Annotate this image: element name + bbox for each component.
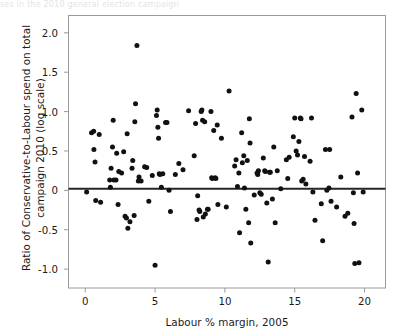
data-point xyxy=(132,119,137,124)
data-point xyxy=(84,189,89,194)
data-point xyxy=(98,200,103,205)
data-point xyxy=(195,193,200,198)
data-point xyxy=(150,173,155,178)
data-point xyxy=(111,118,116,123)
data-point xyxy=(164,120,169,125)
data-point xyxy=(271,145,276,150)
data-point xyxy=(329,199,334,204)
data-point xyxy=(144,165,149,170)
data-point xyxy=(245,158,250,163)
data-point xyxy=(139,178,144,183)
data-point xyxy=(326,185,331,190)
data-point xyxy=(133,101,138,106)
data-point xyxy=(261,156,266,161)
data-point xyxy=(352,261,357,266)
data-point xyxy=(232,163,237,168)
data-point xyxy=(252,193,257,198)
data-point xyxy=(91,129,96,134)
data-point xyxy=(345,211,350,216)
data-point xyxy=(109,166,114,171)
data-point xyxy=(113,178,118,183)
data-point xyxy=(197,209,202,214)
data-point xyxy=(224,204,229,209)
data-point xyxy=(295,152,300,157)
data-points xyxy=(84,43,366,268)
data-point xyxy=(240,160,245,165)
data-point xyxy=(130,166,135,171)
data-point xyxy=(116,202,121,207)
data-point xyxy=(93,198,98,203)
data-point xyxy=(108,185,113,190)
data-point xyxy=(312,218,317,223)
data-point xyxy=(130,158,135,163)
data-point xyxy=(168,209,173,214)
data-point xyxy=(125,131,130,136)
data-point xyxy=(154,113,159,118)
x-axis-ticks xyxy=(85,288,364,293)
data-point xyxy=(285,176,290,181)
data-point xyxy=(246,220,251,225)
data-point xyxy=(211,128,216,133)
data-point xyxy=(227,89,232,94)
data-point xyxy=(273,220,278,225)
data-point xyxy=(327,147,332,152)
data-point xyxy=(132,213,137,218)
data-point xyxy=(334,204,339,209)
data-point xyxy=(215,202,220,207)
data-point xyxy=(291,134,296,139)
data-point xyxy=(352,221,357,226)
data-point xyxy=(356,260,361,265)
data-point xyxy=(206,207,211,212)
data-point xyxy=(127,219,132,224)
data-point xyxy=(160,171,165,176)
data-point xyxy=(134,43,139,48)
data-point xyxy=(243,207,248,212)
data-point xyxy=(167,188,172,193)
data-point xyxy=(268,170,273,175)
data-point xyxy=(242,185,247,190)
data-point xyxy=(202,119,207,124)
data-point xyxy=(239,130,244,135)
data-point xyxy=(349,115,354,120)
data-point xyxy=(310,189,315,194)
data-point xyxy=(125,226,130,231)
data-point xyxy=(241,153,246,158)
data-point xyxy=(361,189,366,194)
data-point xyxy=(121,149,126,154)
data-point xyxy=(119,171,124,176)
data-point xyxy=(97,132,102,137)
data-point xyxy=(320,238,325,243)
data-point xyxy=(301,177,306,182)
data-point xyxy=(302,154,307,159)
data-point xyxy=(153,263,158,268)
data-point xyxy=(208,109,213,114)
data-point xyxy=(266,260,271,265)
data-point xyxy=(354,91,359,96)
data-point xyxy=(199,108,204,113)
data-point xyxy=(176,161,181,166)
data-point xyxy=(355,171,360,176)
data-point xyxy=(186,108,191,113)
data-point xyxy=(237,230,242,235)
data-point xyxy=(156,136,161,141)
scatter-plot-figure: ses in the 2010 general election campaig… xyxy=(0,0,405,335)
data-point xyxy=(263,169,268,174)
y-axis-ticks xyxy=(64,33,69,269)
data-point xyxy=(248,241,253,246)
data-point xyxy=(338,174,343,179)
data-point xyxy=(351,190,356,195)
data-point xyxy=(259,192,264,197)
data-point xyxy=(219,136,224,141)
data-point xyxy=(213,176,218,181)
data-point xyxy=(110,145,115,150)
data-point xyxy=(155,125,160,130)
data-point xyxy=(308,159,313,164)
data-point xyxy=(203,211,208,216)
data-point xyxy=(124,215,129,220)
plot-area xyxy=(0,0,405,335)
data-point xyxy=(299,116,304,121)
data-point xyxy=(256,168,261,173)
data-point xyxy=(234,157,239,162)
data-point xyxy=(264,200,269,205)
data-point xyxy=(194,217,199,222)
